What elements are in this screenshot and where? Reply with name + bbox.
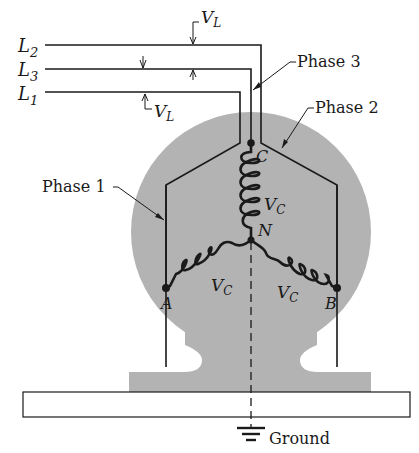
node-label-N: N [257,221,273,240]
line-label-L2: L2 [17,35,38,60]
line-label-L1: L1 [17,83,38,108]
line-voltage-label-top: VL [201,7,221,30]
phase3-leader [253,62,296,90]
mounting-platform [23,392,410,417]
line-voltage-label-left: VL [154,101,174,124]
generator-diagram: Ground L2 L3 L1 VL VL [0,0,419,453]
phase2-label: Phase 2 [315,98,379,117]
line-voltage-arrows-left [140,56,152,109]
line-voltage-arrows-top [190,22,199,80]
node-C-dot [247,139,255,147]
line-label-L3: L3 [17,59,38,84]
phase3-label: Phase 3 [297,52,361,71]
ground-label: Ground [269,429,330,448]
ground-icon [237,428,265,440]
node-label-A: A [159,294,173,313]
node-label-C: C [256,147,268,166]
node-label-B: B [324,294,337,313]
phase1-label: Phase 1 [42,177,106,196]
node-N-dot [248,237,255,244]
